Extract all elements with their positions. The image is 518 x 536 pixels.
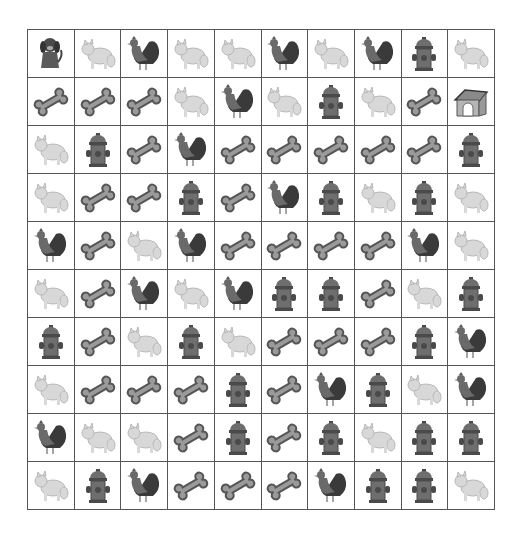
grid-cell-r7-c5[interactable]	[215, 318, 262, 366]
grid-cell-r5-c8[interactable]	[355, 222, 402, 270]
grid-cell-r7-c9[interactable]	[402, 318, 449, 366]
grid-cell-r6-c2[interactable]	[75, 270, 122, 318]
grid-cell-r2-c4[interactable]	[168, 78, 215, 126]
grid-cell-r10-c5[interactable]	[215, 462, 262, 510]
grid-cell-r2-c10[interactable]	[448, 78, 495, 126]
grid-cell-r6-c10[interactable]	[448, 270, 495, 318]
grid-cell-r1-c7[interactable]	[308, 30, 355, 78]
grid-cell-r9-c5[interactable]	[215, 414, 262, 462]
grid-cell-r1-c5[interactable]	[215, 30, 262, 78]
grid-cell-r10-c3[interactable]	[121, 462, 168, 510]
grid-cell-r2-c3[interactable]	[121, 78, 168, 126]
grid-cell-r5-c2[interactable]	[75, 222, 122, 270]
grid-cell-r7-c2[interactable]	[75, 318, 122, 366]
grid-cell-r8-c4[interactable]	[168, 366, 215, 414]
grid-cell-r8-c2[interactable]	[75, 366, 122, 414]
grid-cell-r10-c9[interactable]	[402, 462, 449, 510]
grid-cell-r2-c5[interactable]	[215, 78, 262, 126]
grid-cell-r6-c7[interactable]	[308, 270, 355, 318]
grid-cell-r4-c10[interactable]	[448, 174, 495, 222]
grid-cell-r7-c4[interactable]	[168, 318, 215, 366]
grid-cell-r1-c6[interactable]	[262, 30, 309, 78]
grid-cell-r10-c6[interactable]	[262, 462, 309, 510]
grid-cell-r1-c2[interactable]	[75, 30, 122, 78]
grid-cell-r9-c2[interactable]	[75, 414, 122, 462]
grid-cell-r5-c9[interactable]	[402, 222, 449, 270]
grid-cell-r1-c10[interactable]	[448, 30, 495, 78]
grid-cell-r6-c8[interactable]	[355, 270, 402, 318]
grid-cell-r1-c4[interactable]	[168, 30, 215, 78]
grid-cell-r4-c2[interactable]	[75, 174, 122, 222]
grid-cell-r1-c9[interactable]	[402, 30, 449, 78]
grid-cell-r9-c9[interactable]	[402, 414, 449, 462]
grid-cell-r3-c3[interactable]	[121, 126, 168, 174]
grid-cell-r5-c7[interactable]	[308, 222, 355, 270]
grid-cell-r7-c10[interactable]	[448, 318, 495, 366]
grid-cell-r10-c4[interactable]	[168, 462, 215, 510]
grid-cell-r6-c3[interactable]	[121, 270, 168, 318]
grid-cell-r3-c6[interactable]	[262, 126, 309, 174]
grid-cell-r4-c4[interactable]	[168, 174, 215, 222]
grid-cell-r2-c7[interactable]	[308, 78, 355, 126]
grid-cell-r3-c8[interactable]	[355, 126, 402, 174]
grid-cell-r9-c4[interactable]	[168, 414, 215, 462]
grid-cell-r5-c6[interactable]	[262, 222, 309, 270]
grid-cell-r10-c2[interactable]	[75, 462, 122, 510]
grid-cell-r10-c10[interactable]	[448, 462, 495, 510]
grid-cell-r4-c6[interactable]	[262, 174, 309, 222]
grid-cell-r3-c1[interactable]	[28, 126, 75, 174]
grid-cell-r8-c7[interactable]	[308, 366, 355, 414]
grid-cell-r4-c7[interactable]	[308, 174, 355, 222]
grid-cell-r8-c1[interactable]	[28, 366, 75, 414]
grid-cell-r6-c4[interactable]	[168, 270, 215, 318]
grid-cell-r9-c10[interactable]	[448, 414, 495, 462]
grid-cell-r7-c6[interactable]	[262, 318, 309, 366]
grid-cell-r3-c5[interactable]	[215, 126, 262, 174]
grid-cell-r9-c1[interactable]	[28, 414, 75, 462]
grid-cell-r5-c10[interactable]	[448, 222, 495, 270]
grid-cell-r5-c3[interactable]	[121, 222, 168, 270]
grid-cell-r2-c6[interactable]	[262, 78, 309, 126]
grid-cell-r1-c1[interactable]	[28, 30, 75, 78]
grid-cell-r9-c7[interactable]	[308, 414, 355, 462]
grid-cell-r3-c2[interactable]	[75, 126, 122, 174]
grid-cell-r4-c8[interactable]	[355, 174, 402, 222]
grid-cell-r5-c4[interactable]	[168, 222, 215, 270]
grid-cell-r2-c8[interactable]	[355, 78, 402, 126]
grid-cell-r6-c5[interactable]	[215, 270, 262, 318]
grid-cell-r3-c7[interactable]	[308, 126, 355, 174]
grid-cell-r8-c10[interactable]	[448, 366, 495, 414]
grid-cell-r4-c3[interactable]	[121, 174, 168, 222]
grid-cell-r2-c2[interactable]	[75, 78, 122, 126]
grid-cell-r2-c1[interactable]	[28, 78, 75, 126]
grid-cell-r4-c5[interactable]	[215, 174, 262, 222]
grid-cell-r7-c1[interactable]	[28, 318, 75, 366]
grid-cell-r8-c8[interactable]	[355, 366, 402, 414]
grid-cell-r2-c9[interactable]	[402, 78, 449, 126]
grid-cell-r1-c3[interactable]	[121, 30, 168, 78]
grid-cell-r8-c9[interactable]	[402, 366, 449, 414]
grid-cell-r7-c3[interactable]	[121, 318, 168, 366]
grid-cell-r7-c8[interactable]	[355, 318, 402, 366]
grid-cell-r3-c4[interactable]	[168, 126, 215, 174]
grid-cell-r7-c7[interactable]	[308, 318, 355, 366]
grid-cell-r9-c8[interactable]	[355, 414, 402, 462]
grid-cell-r4-c1[interactable]	[28, 174, 75, 222]
grid-cell-r10-c1[interactable]	[28, 462, 75, 510]
grid-cell-r10-c7[interactable]	[308, 462, 355, 510]
grid-cell-r8-c5[interactable]	[215, 366, 262, 414]
grid-cell-r3-c9[interactable]	[402, 126, 449, 174]
grid-cell-r5-c5[interactable]	[215, 222, 262, 270]
grid-cell-r4-c9[interactable]	[402, 174, 449, 222]
grid-cell-r8-c6[interactable]	[262, 366, 309, 414]
grid-cell-r9-c6[interactable]	[262, 414, 309, 462]
grid-cell-r9-c3[interactable]	[121, 414, 168, 462]
grid-cell-r6-c6[interactable]	[262, 270, 309, 318]
grid-cell-r10-c8[interactable]	[355, 462, 402, 510]
grid-cell-r1-c8[interactable]	[355, 30, 402, 78]
grid-cell-r6-c9[interactable]	[402, 270, 449, 318]
grid-cell-r3-c10[interactable]	[448, 126, 495, 174]
grid-cell-r5-c1[interactable]	[28, 222, 75, 270]
grid-cell-r6-c1[interactable]	[28, 270, 75, 318]
grid-cell-r8-c3[interactable]	[121, 366, 168, 414]
